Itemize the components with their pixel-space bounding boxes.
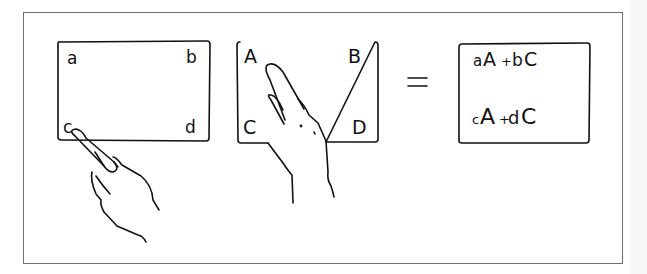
diagram-canvas: a b c d A B C D a A + b C c A + d C bbox=[0, 0, 647, 274]
svg-text:C: C bbox=[524, 48, 537, 70]
svg-text:d: d bbox=[508, 107, 519, 128]
label-a: a bbox=[67, 48, 77, 68]
equals-sign bbox=[408, 78, 427, 86]
svg-text:A: A bbox=[483, 48, 496, 70]
label-B: B bbox=[348, 45, 361, 67]
label-b: b bbox=[186, 47, 197, 67]
svg-text:a: a bbox=[473, 52, 482, 70]
svg-text:c: c bbox=[472, 112, 479, 127]
result-row-2: c A + d C bbox=[472, 104, 536, 129]
pointing-hand-middle-icon bbox=[266, 64, 334, 203]
result-row-1: a A + b C bbox=[473, 48, 537, 70]
svg-text:+: + bbox=[501, 54, 512, 69]
svg-text:C: C bbox=[521, 104, 536, 129]
label-D: D bbox=[352, 116, 367, 138]
label-A: A bbox=[244, 45, 257, 67]
label-c: c bbox=[63, 117, 72, 137]
pointing-hand-left-icon bbox=[72, 129, 159, 242]
svg-text:A: A bbox=[480, 104, 495, 129]
label-C: C bbox=[243, 116, 256, 138]
svg-text:b: b bbox=[512, 50, 523, 70]
label-d: d bbox=[185, 117, 196, 137]
